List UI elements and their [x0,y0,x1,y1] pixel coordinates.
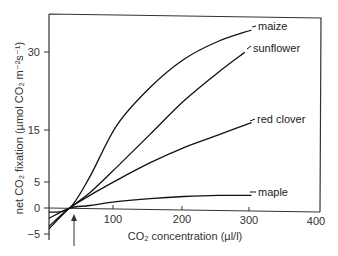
y-ticks [44,52,49,234]
y-tick-labels: 30 15 5 0 −5 [27,46,40,240]
x-tick-200: 200 [173,213,191,225]
arrow-icon [71,214,77,246]
curve-maple [49,195,252,218]
x-axis-title: CO₂ concentration (µl/l) [128,230,243,242]
label-maple: maple [258,186,288,198]
label-red-clover: red clover [257,113,306,125]
y-tick-minus5: −5 [27,228,40,240]
x-tick-400: 400 [307,215,325,227]
label-maize: maize [258,20,287,32]
y-tick-5: 5 [34,176,40,188]
y-axis-title: net CO₂ fixation (µmol CO₂ m⁻²s⁻¹) [13,42,25,214]
y-tick-30: 30 [28,46,40,58]
x-tick-100: 100 [104,213,122,225]
co2-fixation-chart: 30 15 5 0 −5 100 200 300 400 CO₂ concent… [0,0,338,256]
x-axis [49,208,320,212]
x-tick-300: 300 [240,214,258,226]
curve-maize [49,30,252,212]
x-tick-labels: 100 200 300 400 [104,213,325,227]
y-tick-15: 15 [28,124,40,136]
label-sunflower: sunflower [253,42,300,54]
y-tick-0: 0 [34,202,40,214]
